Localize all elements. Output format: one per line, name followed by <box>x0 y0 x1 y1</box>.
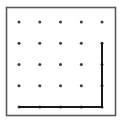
peg-dot <box>18 42 21 45</box>
peg-dot <box>59 63 62 66</box>
peg-dot <box>101 21 104 24</box>
peg-dot <box>59 84 62 87</box>
peg-dot <box>38 84 41 87</box>
geoboard-frame <box>7 8 116 116</box>
peg-dot <box>80 63 83 66</box>
peg-dot <box>59 42 62 45</box>
peg-dot <box>80 84 83 87</box>
peg-dot <box>80 42 83 45</box>
geoboard-figure: Geoboard with right triangle <box>0 0 122 123</box>
peg-dot <box>18 84 21 87</box>
peg-dot <box>18 63 21 66</box>
peg-dot <box>59 21 62 24</box>
geoboard-canvas <box>0 0 122 123</box>
peg-dot <box>38 21 41 24</box>
peg-dot <box>18 21 21 24</box>
peg-dot <box>38 63 41 66</box>
peg-dot <box>38 42 41 45</box>
peg-dot <box>80 21 83 24</box>
